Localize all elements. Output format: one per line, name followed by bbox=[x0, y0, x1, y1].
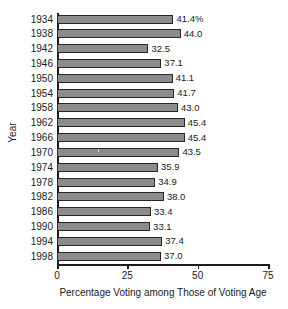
bar[interactable] bbox=[57, 103, 178, 112]
bar-artifact bbox=[98, 149, 99, 152]
bar[interactable] bbox=[57, 163, 158, 172]
y-axis-tick-labels: 1934193819421946195019541958196219661970… bbox=[0, 13, 53, 265]
bar-row: 34.9 bbox=[57, 176, 268, 190]
bar-row: 38.0 bbox=[57, 191, 268, 205]
bar[interactable] bbox=[57, 133, 185, 142]
bar[interactable] bbox=[57, 15, 173, 24]
bar-row: 43.0 bbox=[57, 102, 268, 116]
bar-row: 37.1 bbox=[57, 57, 268, 71]
y-axis-tick-label: 1998 bbox=[1, 251, 53, 263]
bar[interactable] bbox=[57, 118, 185, 127]
x-axis-tick bbox=[198, 264, 200, 269]
bar[interactable] bbox=[57, 29, 181, 38]
y-axis-tick-label: 1970 bbox=[1, 147, 53, 159]
bar-row: 32.5 bbox=[57, 43, 268, 57]
x-axis-tick-label: 75 bbox=[262, 270, 273, 281]
bar-row: 33.4 bbox=[57, 206, 268, 220]
bar[interactable] bbox=[57, 192, 164, 201]
y-axis-tick-label: 1966 bbox=[1, 132, 53, 144]
bar[interactable] bbox=[57, 44, 148, 53]
bar[interactable] bbox=[57, 59, 161, 68]
bar-value-label: 37.1 bbox=[164, 57, 183, 69]
y-axis-tick-label: 1958 bbox=[1, 102, 53, 114]
x-axis-title: Percentage Voting among Those of Voting … bbox=[57, 287, 269, 298]
y-axis-tick-label: 1990 bbox=[1, 221, 53, 233]
bar-row: 37.4 bbox=[57, 235, 268, 249]
x-axis-line bbox=[57, 264, 269, 266]
y-axis-tick-label: 1938 bbox=[1, 28, 53, 40]
bar[interactable] bbox=[57, 148, 179, 157]
bar-row: 41.1 bbox=[57, 72, 268, 86]
bar-value-label: 43.5 bbox=[182, 146, 201, 158]
bar-value-label: 37.0 bbox=[164, 250, 183, 262]
bar-value-label: 41.1 bbox=[176, 72, 195, 84]
bar-value-label: 37.4 bbox=[165, 235, 184, 247]
x-axis-tick bbox=[127, 264, 129, 269]
plot-area: 41.4%44.032.537.141.141.743.045.445.443.… bbox=[57, 13, 268, 265]
y-axis-tick-label: 1962 bbox=[1, 117, 53, 129]
x-axis-tick-label: 25 bbox=[122, 270, 133, 281]
bar-value-label: 33.4 bbox=[154, 206, 173, 218]
bar-row: 44.0 bbox=[57, 28, 268, 42]
bar[interactable] bbox=[57, 252, 161, 261]
bar-row: 37.0 bbox=[57, 250, 268, 264]
bar[interactable] bbox=[57, 222, 150, 231]
bar-value-label: 41.7 bbox=[177, 87, 196, 99]
bar[interactable] bbox=[57, 178, 155, 187]
x-axis-tick bbox=[57, 264, 59, 269]
y-axis-tick-label: 1982 bbox=[1, 191, 53, 203]
bar-value-label: 44.0 bbox=[184, 28, 203, 40]
y-axis-tick-label: 1954 bbox=[1, 88, 53, 100]
x-axis-tick-label: 50 bbox=[192, 270, 203, 281]
bar-row: 45.4 bbox=[57, 117, 268, 131]
bar-value-label: 43.0 bbox=[181, 102, 200, 114]
bar-value-label: 33.1 bbox=[153, 221, 172, 233]
y-axis-tick-label: 1950 bbox=[1, 73, 53, 85]
y-axis-tick-label: 1994 bbox=[1, 236, 53, 248]
bar-value-label: 34.9 bbox=[158, 176, 177, 188]
bar[interactable] bbox=[57, 74, 173, 83]
bar-value-label: 45.4 bbox=[188, 117, 207, 129]
bar[interactable] bbox=[57, 207, 151, 216]
bar-row: 35.9 bbox=[57, 161, 268, 175]
bar-chart: Year 19341938194219461950195419581962196… bbox=[0, 0, 288, 309]
bar-value-label: 38.0 bbox=[167, 191, 186, 203]
bar-value-label: 32.5 bbox=[151, 43, 170, 55]
bar-row: 41.7 bbox=[57, 87, 268, 101]
y-axis-tick-label: 1986 bbox=[1, 206, 53, 218]
bar[interactable] bbox=[57, 237, 162, 246]
bar-value-label: 41.4% bbox=[176, 13, 203, 25]
bar-row: 45.4 bbox=[57, 132, 268, 146]
x-axis-tick bbox=[268, 264, 270, 269]
bar-row: 33.1 bbox=[57, 221, 268, 235]
y-axis-tick-label: 1942 bbox=[1, 43, 53, 55]
bar-row: 43.5 bbox=[57, 146, 268, 160]
bar[interactable] bbox=[57, 89, 174, 98]
bar-value-label: 45.4 bbox=[188, 132, 207, 144]
y-axis-tick-label: 1978 bbox=[1, 177, 53, 189]
x-axis-tick-label: 0 bbox=[54, 270, 60, 281]
y-axis-tick-label: 1974 bbox=[1, 162, 53, 174]
y-axis-tick-label: 1934 bbox=[1, 14, 53, 26]
bar-value-label: 35.9 bbox=[161, 161, 180, 173]
y-axis-tick-label: 1946 bbox=[1, 58, 53, 70]
bar-row: 41.4% bbox=[57, 13, 268, 27]
